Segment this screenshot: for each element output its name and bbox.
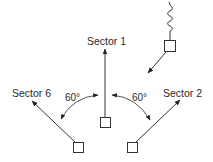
right-angle-label: 60° — [132, 92, 147, 103]
center-box — [101, 118, 111, 128]
left-angle-label: 60° — [65, 92, 80, 103]
left-box — [74, 143, 84, 153]
source-unit — [148, 2, 176, 73]
coil-antenna-icon — [168, 2, 173, 40]
sector6-label: Sector 6 — [12, 87, 51, 99]
left-angle-indicator: 60° — [61, 92, 98, 119]
center-antenna: Sector 1 — [87, 35, 126, 128]
sector1-label: Sector 1 — [87, 35, 126, 47]
source-box — [165, 41, 176, 52]
right-angle-indicator: 60° — [112, 92, 150, 120]
sector-diagram: Sector 1 Sector 6 Sector 2 60° 60° — [0, 0, 213, 162]
source-arrow — [148, 52, 166, 73]
sector2-arrow — [135, 100, 180, 143]
sector2-label: Sector 2 — [163, 87, 202, 99]
right-box — [128, 143, 138, 153]
